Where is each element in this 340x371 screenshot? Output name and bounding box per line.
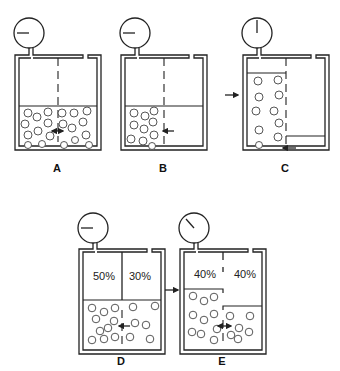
- solute-molecules: [252, 76, 283, 149]
- solute-molecules: [21, 107, 93, 149]
- solution-level-left: [184, 289, 223, 293]
- panel-e: 40% 40% E: [179, 213, 266, 367]
- gauge-needle: [186, 219, 194, 228]
- panel-label: C: [281, 162, 289, 174]
- panel-label: A: [53, 162, 61, 174]
- panel-label: B: [159, 162, 167, 174]
- solution-level-right: [223, 306, 262, 310]
- right-concentration: 30%: [129, 270, 151, 282]
- panel-c: C: [242, 18, 329, 174]
- left-concentration: 40%: [194, 268, 216, 280]
- panel-d: 50% 30% D: [78, 213, 165, 367]
- left-concentration: 50%: [93, 270, 115, 282]
- osmosis-diagram: A B C: [0, 0, 340, 371]
- panel-label: E: [218, 355, 225, 367]
- solute-molecules: [127, 107, 158, 150]
- right-concentration: 40%: [234, 268, 256, 280]
- panel-a: A: [14, 18, 101, 174]
- solute-molecules: [88, 302, 159, 344]
- panel-b: B: [120, 18, 207, 174]
- solute-molecules: [188, 292, 254, 344]
- panel-label: D: [117, 355, 125, 367]
